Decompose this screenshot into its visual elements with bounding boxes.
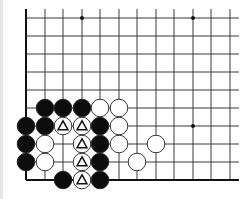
black-stone (17, 117, 35, 135)
white-stone (110, 99, 128, 117)
white-stone (128, 153, 146, 171)
black-stone (54, 99, 72, 117)
black-stone (36, 99, 54, 117)
white-stone (36, 153, 54, 171)
black-stone (91, 171, 109, 189)
white-stone (36, 135, 54, 153)
star-point (191, 16, 195, 20)
white-stone (110, 117, 128, 135)
black-stone (17, 153, 35, 171)
white-stone (54, 117, 72, 135)
black-stone (91, 135, 109, 153)
star-point (191, 124, 195, 128)
star-point (80, 16, 84, 20)
white-stone (73, 153, 91, 171)
white-stone (73, 135, 91, 153)
white-stone (73, 117, 91, 135)
black-stone (54, 171, 72, 189)
black-stone (73, 99, 91, 117)
black-stone (91, 153, 109, 171)
go-board[interactable] (0, 0, 252, 199)
white-stone (147, 135, 165, 153)
white-stone (91, 99, 109, 117)
white-stone (110, 135, 128, 153)
black-stone (17, 135, 35, 153)
black-stone (36, 117, 54, 135)
white-stone (73, 171, 91, 189)
black-stone (91, 117, 109, 135)
